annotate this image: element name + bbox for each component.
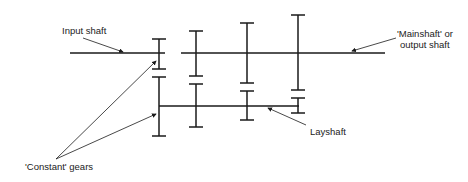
layshaft-arrow <box>268 108 306 125</box>
constant-gears-label: 'Constant' gears <box>25 161 93 172</box>
layshaft-label: Layshaft <box>310 126 346 137</box>
mainshaft-arrow <box>352 38 396 51</box>
input-shaft-label: Input shaft <box>62 25 107 36</box>
mainshaft-label-line2: output shaft <box>400 39 450 50</box>
gearbox-diagram: Input shaft 'Mainshaft' or output shaft … <box>0 0 468 182</box>
mainshaft-label-line1: 'Mainshaft' or <box>397 28 453 39</box>
input-shaft-arrow <box>83 38 123 52</box>
constant-gear-arrow-lower <box>56 114 156 159</box>
constant-gear-arrow-upper <box>56 61 156 159</box>
constant-gear-input <box>152 39 166 69</box>
